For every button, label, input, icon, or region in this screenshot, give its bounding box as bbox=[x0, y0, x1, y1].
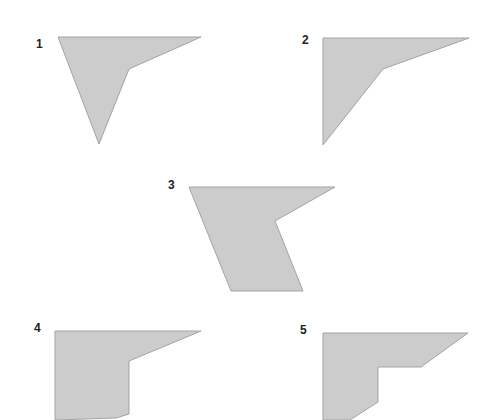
shape-1-label: 1 bbox=[36, 37, 43, 51]
shape-4-polygon bbox=[55, 331, 201, 420]
shapes-diagram: 1 2 3 4 5 bbox=[0, 0, 488, 420]
shape-3-polygon bbox=[189, 187, 335, 291]
shape-5-label: 5 bbox=[300, 323, 307, 337]
shape-2-polygon bbox=[323, 38, 469, 145]
shape-1: 1 bbox=[36, 37, 201, 144]
shape-4: 4 bbox=[34, 321, 201, 420]
shape-1-polygon bbox=[58, 37, 201, 144]
shape-3-label: 3 bbox=[168, 178, 175, 192]
shape-5: 5 bbox=[300, 323, 468, 420]
shape-2-label: 2 bbox=[302, 33, 309, 47]
shape-4-label: 4 bbox=[34, 321, 41, 335]
shape-5-polygon bbox=[323, 333, 468, 420]
shape-2: 2 bbox=[302, 33, 469, 145]
shape-3: 3 bbox=[168, 178, 335, 291]
